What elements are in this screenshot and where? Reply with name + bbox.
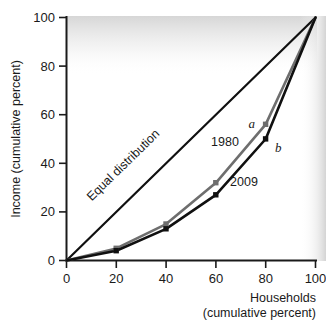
plot-right-tint <box>300 16 326 261</box>
y-axis-title: Income (cumulative percent) <box>9 60 23 218</box>
x-axis-title-line2: (cumulative percent) <box>203 306 316 320</box>
x-tick-label-40: 40 <box>159 271 173 286</box>
x-tick-label-80: 80 <box>258 271 272 286</box>
y-tick-label-100: 100 <box>33 10 55 25</box>
x-tick-label-100: 100 <box>305 271 326 286</box>
lorenz-curve-chart: 100 80 60 40 20 0 0 20 40 60 80 100 Inco… <box>0 0 326 323</box>
series-label-1980: 1980 <box>211 135 239 149</box>
point-label-b: b <box>275 140 282 155</box>
marker-2009-20 <box>114 248 119 253</box>
x-tick-label-20: 20 <box>109 271 123 286</box>
marker-1980-80-point-a <box>263 122 268 127</box>
lorenz-curve-figure: 100 80 60 40 20 0 0 20 40 60 80 100 Inco… <box>0 0 326 323</box>
x-tick-label-0: 0 <box>63 271 70 286</box>
y-tick-label-60: 60 <box>41 107 55 122</box>
marker-1980-60 <box>213 180 218 185</box>
y-tick-label-0: 0 <box>48 253 55 268</box>
point-label-a: a <box>249 116 256 131</box>
y-tick-label-80: 80 <box>41 59 55 74</box>
x-axis-title-line1: Households <box>250 291 316 305</box>
x-tick-label-60: 60 <box>209 271 223 286</box>
marker-2009-80-point-b <box>263 136 268 141</box>
equal-distribution-label: Equal distribution <box>84 127 162 204</box>
y-tick-label-40: 40 <box>41 156 55 171</box>
plot-top-tint <box>67 16 317 76</box>
y-tick-label-20: 20 <box>41 204 55 219</box>
series-label-2009: 2009 <box>230 175 258 189</box>
marker-2009-60 <box>213 192 218 197</box>
marker-2009-40 <box>163 226 168 231</box>
marker-1980-40 <box>163 221 168 226</box>
